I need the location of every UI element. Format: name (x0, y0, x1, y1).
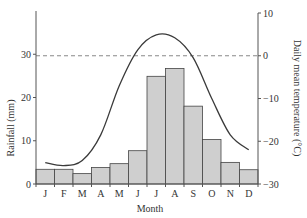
rainfall-bar (110, 164, 129, 184)
month-tick-label: O (208, 188, 215, 199)
x-axis-title: Month (137, 203, 164, 214)
right-tick-label: −10 (263, 93, 279, 104)
right-axis-temperature: 100−10−20−30 (258, 8, 279, 190)
left-tick-label: 20 (21, 92, 31, 103)
month-tick-label: D (245, 188, 252, 199)
left-tick-label: 0 (26, 179, 31, 190)
left-axis-title: Rainfall (mm) (5, 100, 17, 157)
rainfall-bar (55, 169, 74, 184)
month-tick-label: M (78, 188, 87, 199)
right-axis-title: Daily mean temperature (°C) (291, 40, 303, 156)
right-tick-label: −30 (263, 179, 279, 190)
left-tick-label: 10 (21, 135, 31, 146)
x-axis-months: JFMAMJJASOND (36, 184, 258, 199)
month-tick-label: A (171, 188, 179, 199)
month-tick-label: J (136, 188, 140, 199)
rainfall-bar (73, 174, 92, 184)
rainfall-bar (92, 168, 111, 184)
month-tick-label: S (190, 188, 196, 199)
month-tick-label: M (115, 188, 124, 199)
climate-chart: 0102030 100−10−20−30 JFMAMJJASOND Month … (0, 0, 307, 218)
right-tick-label: −20 (263, 136, 279, 147)
rainfall-bar (240, 170, 259, 184)
rainfall-bar (147, 76, 166, 184)
rainfall-bar (184, 106, 203, 184)
rainfall-bar (203, 139, 222, 184)
month-tick-label: J (154, 188, 158, 199)
rainfall-bar (129, 151, 148, 184)
left-tick-label: 30 (21, 49, 31, 60)
month-tick-label: J (43, 188, 47, 199)
rainfall-bar (221, 162, 240, 184)
month-tick-label: N (227, 188, 234, 199)
rainfall-bar (166, 69, 185, 184)
rainfall-bar (36, 169, 55, 184)
left-axis-rainfall: 0102030 (21, 11, 36, 190)
month-tick-label: F (61, 188, 67, 199)
right-tick-label: 0 (263, 50, 268, 61)
month-tick-label: A (97, 188, 105, 199)
right-tick-label: 10 (263, 8, 273, 19)
